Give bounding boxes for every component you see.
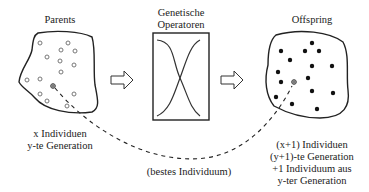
arrow-right-icon <box>111 71 133 89</box>
parents-title: Parents <box>30 14 90 27</box>
parent-individuals <box>25 41 77 108</box>
offspring-individuals <box>274 41 335 111</box>
offspring-caption-line3: +1 Individuum aus <box>262 163 362 176</box>
crossover-curve-a <box>157 40 200 116</box>
crossover-curve-b <box>157 40 200 116</box>
best-individual-carried-marker <box>292 80 297 85</box>
offspring-caption-line2: (y+1)-te Generation <box>262 151 362 164</box>
operators-title-line2: Operatoren <box>141 19 221 32</box>
parents-population-blob <box>19 31 98 112</box>
arrow-right-icon <box>221 71 243 89</box>
parents-caption-line2: y-te Generation <box>20 140 100 153</box>
parents-caption-line1: x Individuen <box>20 128 100 141</box>
offspring-caption-line4: y-ter Generation <box>262 175 362 188</box>
offspring-population-blob <box>266 31 348 118</box>
best-parent-marker <box>51 84 56 89</box>
best-individual-label: (bestes Individuum) <box>134 166 244 179</box>
operators-title-line1: Genetische <box>141 7 221 20</box>
offspring-caption-line1: (x+1) Individuen <box>262 139 362 152</box>
offspring-title: Offspring <box>282 14 342 27</box>
